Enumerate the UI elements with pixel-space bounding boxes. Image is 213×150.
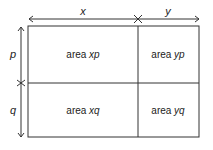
area-diagram-lines	[0, 0, 213, 150]
cell-area-yq: area yq	[151, 105, 184, 116]
cell-area-xq: area xq	[66, 105, 99, 116]
cell-area-xp: area xp	[66, 49, 99, 60]
outer-rectangle	[28, 26, 199, 137]
dimension-x-label: x	[80, 5, 86, 17]
dimension-q-label: q	[10, 104, 16, 116]
dimension-y-label: y	[165, 5, 171, 17]
dimension-p-label: p	[10, 48, 16, 60]
cell-area-yp: area yp	[151, 49, 184, 60]
